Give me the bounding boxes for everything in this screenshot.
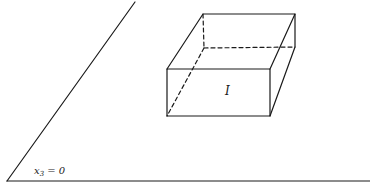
- box-hidden-depth-edge: [167, 48, 204, 116]
- box-i: I: [167, 14, 295, 116]
- plane-x3-zero: x3 = 0: [7, 2, 370, 181]
- box-right-face-edges: [270, 14, 295, 116]
- plane-slanted-edge: [7, 2, 135, 181]
- diagram-canvas: x3 = 0 I: [0, 0, 370, 188]
- box-hidden-back-edge: [204, 47, 295, 48]
- box-top-face-edges: [167, 14, 295, 69]
- box-front-face: [167, 69, 270, 116]
- plane-label: x3 = 0: [34, 165, 66, 178]
- box-label: I: [224, 84, 230, 98]
- box-hidden-vertical-edge: [203, 14, 204, 48]
